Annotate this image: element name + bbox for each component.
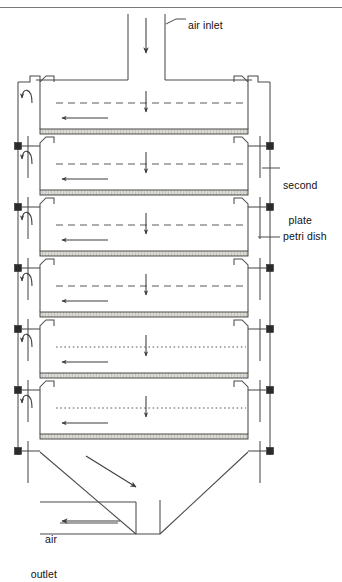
left-duct-wall-5 <box>40 320 54 373</box>
label-air-outlet: air outlet <box>13 511 57 582</box>
lower-funnel-right-slope <box>160 452 248 534</box>
label-second-plate-line1: second <box>283 180 317 192</box>
recirculation-arrow-1 <box>22 90 32 103</box>
plate-4 <box>40 312 248 317</box>
callout-leader-lines <box>60 168 280 523</box>
shelf-level-5 <box>22 320 260 422</box>
recirculation-arrow-6 <box>22 395 32 408</box>
recirculation-arrow-3 <box>22 212 32 225</box>
column-top-right-cap <box>248 76 270 82</box>
connector-node-4-left <box>15 326 22 333</box>
left-duct-wall-1 <box>40 76 54 129</box>
shelf-level-3 <box>22 198 260 300</box>
connector-node-5-right <box>267 387 274 394</box>
recirculation-arrow-5 <box>22 334 32 347</box>
left-duct-wall-4 <box>40 259 54 312</box>
connector-node-3-left <box>15 265 22 272</box>
left-duct-wall-2 <box>40 137 54 190</box>
label-air-outlet-line2: outlet <box>13 569 57 581</box>
plate-1 <box>40 129 248 134</box>
connector-node-5-left <box>15 387 22 394</box>
lower-funnel-assembly <box>40 452 248 534</box>
left-duct-wall-3 <box>40 198 54 251</box>
recirculation-arrow-4 <box>22 273 32 286</box>
connector-node-2-right <box>267 204 274 211</box>
connector-node-2-left <box>15 204 22 211</box>
recirculation-arrow-2 <box>22 151 32 164</box>
connector-node-6-left <box>15 448 22 455</box>
plate-2 <box>40 190 248 195</box>
label-second-plate: second plate <box>283 157 317 238</box>
column-top-left-cap <box>18 76 40 82</box>
lower-funnel-diagonal-arrow <box>86 456 136 487</box>
connector-node-1-left <box>15 143 22 150</box>
connector-node-6-right <box>267 448 274 455</box>
connector-node-1-right <box>267 143 274 150</box>
shelf-stack <box>15 76 274 483</box>
connector-node-3-right <box>267 265 274 272</box>
shelf-level-2 <box>22 137 260 239</box>
label-second-plate-line2: plate <box>283 215 317 227</box>
left-duct-wall-6 <box>40 381 54 434</box>
shelf-level-4 <box>22 259 260 361</box>
label-air-outlet-line1: air <box>13 534 57 546</box>
label-air-inlet: air inlet <box>188 20 223 32</box>
label-petri-dish: petri dish <box>283 231 327 243</box>
plate-6 <box>40 434 248 439</box>
shelf-level-1 <box>22 76 260 178</box>
plate-3 <box>40 251 248 256</box>
air-inlet-leader-line <box>166 19 186 24</box>
plate-5 <box>40 373 248 378</box>
connector-node-4-right <box>267 326 274 333</box>
